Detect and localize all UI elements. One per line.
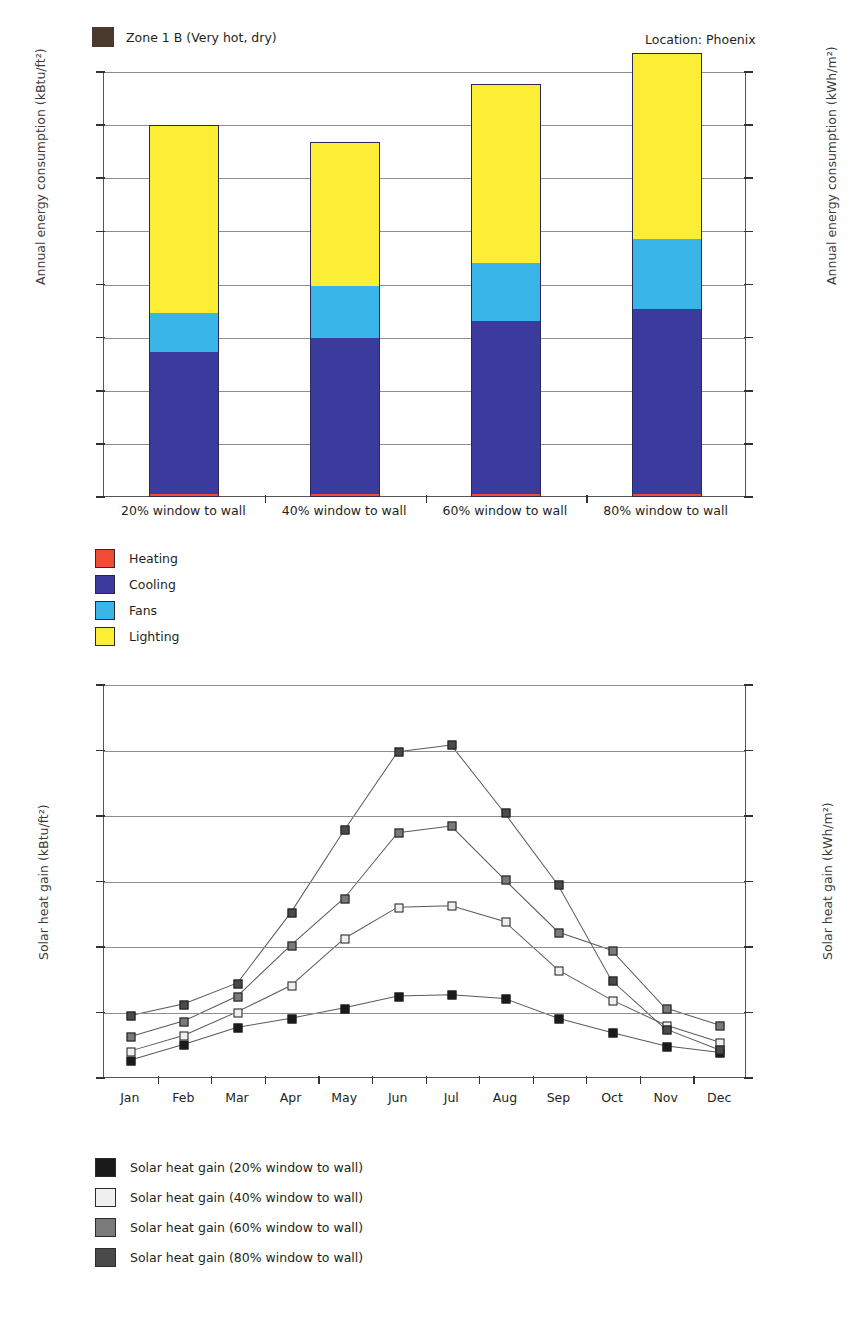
bar-segment-heating[interactable] xyxy=(472,494,540,496)
legend-item[interactable]: Cooling xyxy=(95,571,180,597)
legend-item[interactable]: Fans xyxy=(95,597,180,623)
data-point-marker[interactable] xyxy=(555,1015,564,1024)
data-point-marker[interactable] xyxy=(501,809,510,818)
chart2-x-tick xyxy=(693,1076,694,1084)
bar-segment-cooling[interactable] xyxy=(311,338,379,495)
data-point-marker[interactable] xyxy=(287,941,296,950)
bar-segment-cooling[interactable] xyxy=(633,309,701,494)
chart1-y-tick-left xyxy=(96,496,105,498)
bar-segment-cooling[interactable] xyxy=(150,352,218,494)
zone-swatch-icon xyxy=(92,27,114,47)
stacked-bar[interactable] xyxy=(472,85,540,496)
bar-segment-lighting[interactable] xyxy=(150,126,218,313)
data-point-marker[interactable] xyxy=(180,1032,189,1041)
data-point-marker[interactable] xyxy=(180,1017,189,1026)
chart2-y-tick-left xyxy=(96,1012,105,1014)
data-point-marker[interactable] xyxy=(662,1042,671,1051)
data-point-marker[interactable] xyxy=(126,1033,135,1042)
line-series-path xyxy=(131,906,719,1051)
bar-segment-lighting[interactable] xyxy=(472,85,540,263)
zone-legend: Zone 1 B (Very hot, dry) xyxy=(92,27,277,47)
data-point-marker[interactable] xyxy=(180,1000,189,1009)
figure-page: Zone 1 B (Very hot, dry) Location: Phoen… xyxy=(0,0,851,1318)
bar-segment-heating[interactable] xyxy=(633,494,701,496)
data-point-marker[interactable] xyxy=(448,741,457,750)
legend-item[interactable]: Heating xyxy=(95,545,180,571)
data-point-marker[interactable] xyxy=(716,1046,725,1055)
data-point-marker[interactable] xyxy=(555,881,564,890)
chart2-y-tick-right xyxy=(744,1012,753,1014)
data-point-marker[interactable] xyxy=(341,894,350,903)
data-point-marker[interactable] xyxy=(180,1041,189,1050)
data-point-marker[interactable] xyxy=(448,822,457,831)
chart2-x-label: Feb xyxy=(172,1090,194,1105)
data-point-marker[interactable] xyxy=(126,1012,135,1021)
data-point-marker[interactable] xyxy=(448,991,457,1000)
data-point-marker[interactable] xyxy=(662,1025,671,1034)
chart1-y-tick-left xyxy=(96,71,105,73)
legend-item[interactable]: Lighting xyxy=(95,623,180,649)
chart2-y-tick-right xyxy=(744,815,753,817)
data-point-marker[interactable] xyxy=(609,1029,618,1038)
data-point-marker[interactable] xyxy=(126,1047,135,1056)
bar-segment-cooling[interactable] xyxy=(472,321,540,494)
chart2-x-tick xyxy=(265,1076,266,1084)
legend-item[interactable]: Solar heat gain (20% window to wall) xyxy=(95,1152,363,1182)
chart2-legend: Solar heat gain (20% window to wall)Sola… xyxy=(95,1152,363,1272)
bar-segment-heating[interactable] xyxy=(150,494,218,496)
data-point-marker[interactable] xyxy=(501,995,510,1004)
data-point-marker[interactable] xyxy=(662,1004,671,1013)
chart1-x-tick xyxy=(586,495,587,503)
legend-swatch-icon xyxy=(95,601,115,620)
data-point-marker[interactable] xyxy=(341,935,350,944)
data-point-marker[interactable] xyxy=(501,876,510,885)
data-point-marker[interactable] xyxy=(341,826,350,835)
legend-swatch-icon xyxy=(95,1218,116,1237)
bar-segment-lighting[interactable] xyxy=(311,143,379,285)
data-point-marker[interactable] xyxy=(341,1004,350,1013)
legend-swatch-icon xyxy=(95,575,115,594)
chart2-gridline xyxy=(104,685,745,686)
bar-segment-fans[interactable] xyxy=(150,313,218,353)
data-point-marker[interactable] xyxy=(126,1056,135,1065)
legend-label: Heating xyxy=(129,551,178,566)
legend-item[interactable]: Solar heat gain (60% window to wall) xyxy=(95,1212,363,1242)
bar-segment-lighting[interactable] xyxy=(633,54,701,239)
data-point-marker[interactable] xyxy=(287,982,296,991)
data-point-marker[interactable] xyxy=(394,903,403,912)
data-point-marker[interactable] xyxy=(394,992,403,1001)
data-point-marker[interactable] xyxy=(609,996,618,1005)
stacked-bar[interactable] xyxy=(150,126,218,496)
data-point-marker[interactable] xyxy=(555,928,564,937)
data-point-marker[interactable] xyxy=(233,1008,242,1017)
stacked-bar[interactable] xyxy=(311,143,379,496)
bar-segment-fans[interactable] xyxy=(633,239,701,309)
stacked-bar[interactable] xyxy=(633,54,701,496)
data-point-marker[interactable] xyxy=(448,902,457,911)
chart2-gridline xyxy=(104,1013,745,1014)
data-point-marker[interactable] xyxy=(609,946,618,955)
data-point-marker[interactable] xyxy=(287,908,296,917)
data-point-marker[interactable] xyxy=(501,918,510,927)
data-point-marker[interactable] xyxy=(394,829,403,838)
legend-item[interactable]: Solar heat gain (40% window to wall) xyxy=(95,1182,363,1212)
data-point-marker[interactable] xyxy=(394,747,403,756)
data-point-marker[interactable] xyxy=(233,992,242,1001)
chart1-y-tick-right xyxy=(744,390,753,392)
data-point-marker[interactable] xyxy=(233,979,242,988)
legend-item[interactable]: Solar heat gain (80% window to wall) xyxy=(95,1242,363,1272)
data-point-marker[interactable] xyxy=(716,1021,725,1030)
bar-segment-heating[interactable] xyxy=(311,494,379,496)
bar-segment-fans[interactable] xyxy=(472,263,540,321)
bar-segment-fans[interactable] xyxy=(311,286,379,338)
chart2-x-tick xyxy=(479,1076,480,1084)
data-point-marker[interactable] xyxy=(287,1015,296,1024)
data-point-marker[interactable] xyxy=(609,977,618,986)
chart1-x-label: 60% window to wall xyxy=(443,503,568,518)
legend-swatch-icon xyxy=(95,1158,116,1177)
data-point-marker[interactable] xyxy=(233,1024,242,1033)
chart1-y-tick-right xyxy=(744,124,753,126)
chart1-y-tick-right xyxy=(744,337,753,339)
data-point-marker[interactable] xyxy=(555,966,564,975)
chart1-legend: HeatingCoolingFansLighting xyxy=(95,545,180,649)
